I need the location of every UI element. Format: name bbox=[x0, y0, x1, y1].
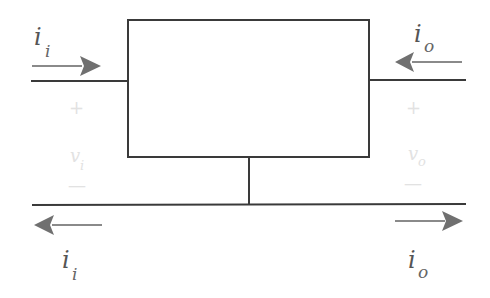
arrow-left-icon bbox=[395, 52, 414, 72]
svg-text:i: i bbox=[45, 41, 50, 61]
svg-text:i: i bbox=[408, 246, 416, 274]
output-current-arrow-out bbox=[395, 211, 463, 231]
svg-text:o: o bbox=[418, 154, 426, 169]
polarity-plus: + bbox=[69, 97, 84, 118]
common-bottom-wire bbox=[32, 204, 466, 205]
label-input-current-top: i i bbox=[34, 23, 50, 61]
two-port-network-diagram: i i i o i i i o + v i — + v o — bbox=[0, 0, 490, 298]
two-port-block bbox=[128, 20, 369, 157]
polarity-plus: + bbox=[406, 97, 421, 118]
svg-text:i: i bbox=[62, 246, 70, 274]
label-input-voltage: + v i — bbox=[68, 97, 86, 196]
polarity-minus: — bbox=[68, 175, 86, 196]
svg-text:i: i bbox=[80, 158, 84, 173]
label-output-current-bottom: i o bbox=[408, 246, 428, 282]
input-current-arrow-in bbox=[32, 56, 101, 76]
input-current-arrow-out bbox=[34, 215, 102, 235]
arrow-right-icon bbox=[80, 56, 101, 76]
svg-text:o: o bbox=[418, 262, 428, 282]
svg-text:i: i bbox=[414, 20, 422, 48]
label-output-current-top: i o bbox=[414, 20, 434, 56]
label-input-current-bottom: i i bbox=[62, 246, 77, 284]
svg-text:i: i bbox=[34, 23, 42, 51]
polarity-minus: — bbox=[404, 173, 422, 194]
svg-text:v: v bbox=[70, 145, 80, 166]
svg-text:o: o bbox=[424, 36, 434, 56]
svg-text:i: i bbox=[72, 264, 77, 284]
arrow-left-icon bbox=[34, 215, 54, 235]
label-output-voltage: + v o — bbox=[404, 97, 426, 194]
arrow-right-icon bbox=[442, 211, 463, 231]
svg-text:v: v bbox=[408, 143, 418, 164]
